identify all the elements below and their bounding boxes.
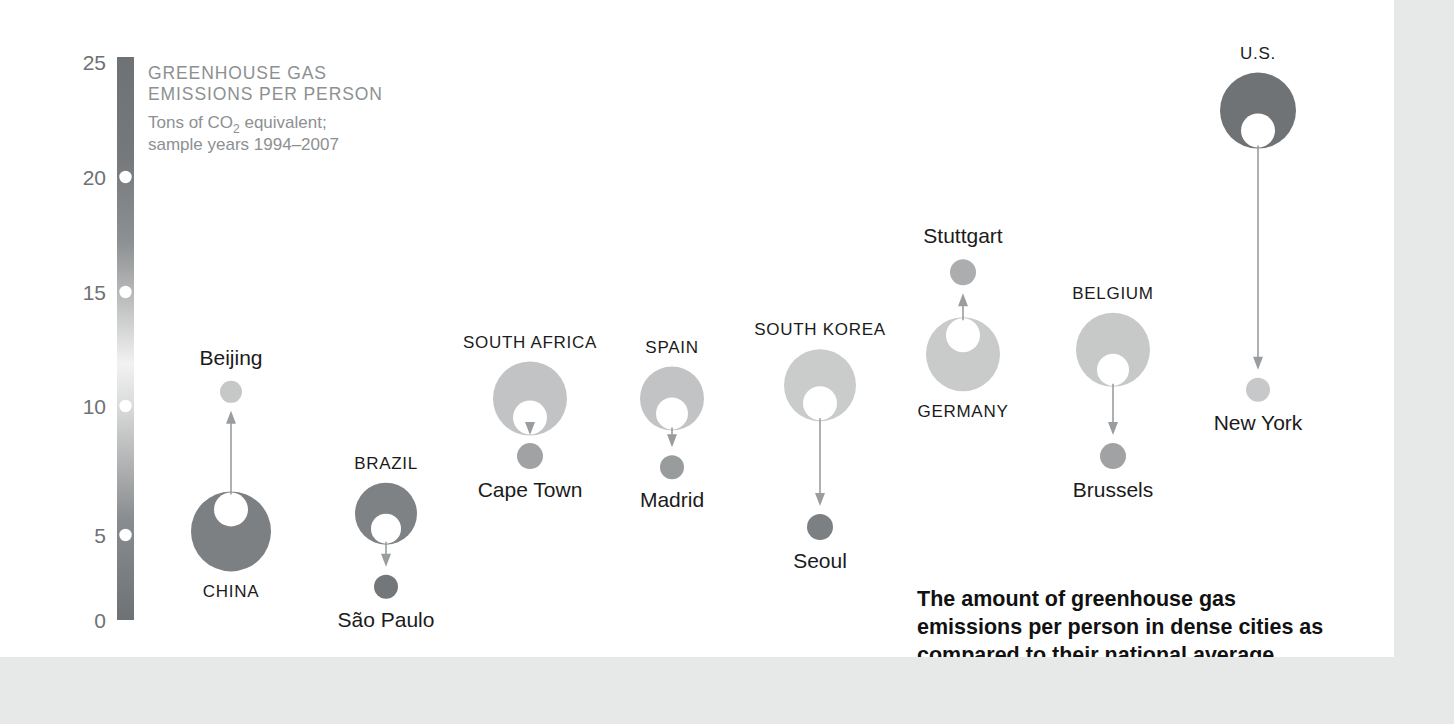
caption-line-3: compared to their national average (917, 643, 1274, 657)
axis-tick-label-0: 0 (94, 609, 106, 632)
pair-germany: GERMANYStuttgart (918, 224, 1009, 421)
axis-tick-label-20: 20 (83, 166, 106, 189)
connector-arrowhead-brazil (381, 554, 391, 567)
city-bubble-cape-town[interactable] (517, 443, 543, 469)
country-bubble-hole-china (214, 492, 248, 526)
pair-spain: SPAINMadrid (640, 338, 704, 512)
chart-title-line-2: EMISSIONS PER PERSON (148, 84, 383, 104)
city-bubble-seoul[interactable] (807, 514, 833, 540)
subtitle-prefix: Tons of CO (148, 113, 233, 132)
city-label-beijing: Beijing (199, 346, 262, 369)
connector-arrowhead-u-s- (1253, 357, 1263, 370)
page-root: GREENHOUSE GAS EMISSIONS PER PERSON Tons… (0, 0, 1454, 724)
axis-tick-dot-10 (119, 400, 131, 412)
city-label-seoul: Seoul (793, 549, 847, 572)
country-bubble-hole-south-korea (803, 386, 837, 420)
chart-subtitle-line-2: sample years 1994–2007 (148, 135, 339, 154)
caption-line-1: The amount of greenhouse gas (917, 587, 1236, 611)
country-bubble-hole-u-s- (1241, 114, 1275, 148)
country-bubble-hole-brazil (371, 514, 401, 544)
city-bubble-brussels[interactable] (1100, 443, 1126, 469)
pair-belgium: BELGIUMBrussels (1072, 284, 1153, 501)
connector-arrowhead-belgium (1108, 422, 1118, 435)
country-label-germany: GERMANY (918, 402, 1009, 421)
city-label-cape-town: Cape Town (478, 478, 583, 501)
connector-arrowhead-spain (667, 434, 677, 447)
figure-card: GREENHOUSE GAS EMISSIONS PER PERSON Tons… (0, 0, 1394, 657)
axis-tick-label-25: 25 (83, 51, 106, 74)
axis-tick-label-5: 5 (94, 524, 106, 547)
city-label-madrid: Madrid (640, 488, 704, 511)
pair-china: CHINABeijing (191, 346, 271, 602)
axis-tick-dot-5 (119, 529, 131, 541)
country-label-south-africa: SOUTH AFRICA (463, 333, 597, 352)
city-label-new-york: New York (1214, 411, 1303, 434)
city-label-s-o-paulo: São Paulo (338, 608, 435, 631)
pair-south-korea: SOUTH KOREASeoul (754, 320, 885, 572)
country-city-pairs: CHINABeijingBRAZILSão PauloSOUTH AFRICAC… (191, 44, 1303, 631)
country-label-south-korea: SOUTH KOREA (754, 320, 885, 339)
city-bubble-beijing[interactable] (220, 381, 242, 403)
axis-tick-label-10: 10 (83, 395, 106, 418)
axis-tick-label-15: 15 (83, 281, 106, 304)
city-label-stuttgart: Stuttgart (923, 224, 1003, 247)
city-bubble-s-o-paulo[interactable] (374, 575, 398, 599)
city-bubble-stuttgart[interactable] (950, 259, 976, 285)
connector-arrowhead-germany (958, 293, 968, 306)
country-label-u-s-: U.S. (1240, 44, 1276, 63)
chart-canvas: GREENHOUSE GAS EMISSIONS PER PERSON Tons… (0, 0, 1394, 657)
chart-title-line-1: GREENHOUSE GAS (148, 63, 327, 83)
country-bubble-hole-spain (656, 398, 688, 430)
caption-block: The amount of greenhouse gas emissions p… (917, 587, 1323, 657)
country-label-spain: SPAIN (645, 338, 698, 357)
country-label-belgium: BELGIUM (1072, 284, 1153, 303)
city-bubble-madrid[interactable] (660, 455, 684, 479)
subtitle-suffix: equivalent; (240, 113, 327, 132)
city-bubble-new-york[interactable] (1246, 378, 1270, 402)
country-bubble-hole-belgium (1097, 354, 1129, 386)
infographic-figure: GREENHOUSE GAS EMISSIONS PER PERSON Tons… (0, 0, 1394, 657)
chart-title-block: GREENHOUSE GAS EMISSIONS PER PERSON Tons… (148, 63, 383, 154)
country-label-china: CHINA (203, 582, 259, 601)
connector-arrowhead-south-korea (815, 493, 825, 506)
axis-tick-dot-15 (119, 286, 131, 298)
pair-brazil: BRAZILSão Paulo (338, 454, 435, 631)
country-bubble-hole-germany (946, 318, 980, 352)
pair-south-africa: SOUTH AFRICACape Town (463, 333, 597, 502)
country-label-brazil: BRAZIL (354, 454, 418, 473)
y-axis: 25 20 15 10 5 0 (83, 51, 134, 632)
caption-line-2: emissions per person in dense cities as (917, 615, 1323, 639)
connector-arrowhead-china (226, 411, 236, 424)
city-label-brussels: Brussels (1073, 478, 1154, 501)
chart-subtitle-line-1: Tons of CO2 equivalent; (148, 113, 327, 136)
pair-u-s-: U.S.New York (1214, 44, 1303, 434)
axis-tick-dot-20 (119, 171, 131, 183)
